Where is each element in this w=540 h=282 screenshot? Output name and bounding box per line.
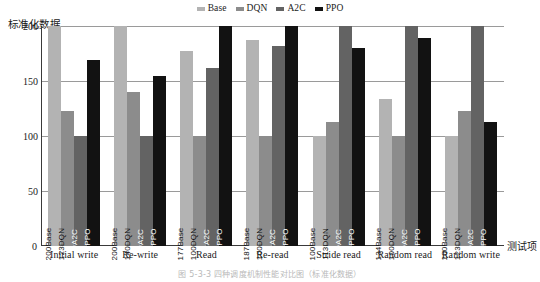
bar-read-base[interactable]: 177Base bbox=[180, 51, 193, 246]
category-label-random-write: Random write bbox=[438, 249, 504, 260]
bar-random-write-a2c[interactable]: 200A2C bbox=[471, 26, 484, 246]
legend-swatch-a2c bbox=[276, 7, 284, 11]
bar-groups: 200Base123DQN100A2C169PPO200Base140DQN10… bbox=[41, 26, 504, 246]
bar-read-ppo[interactable]: 200PPO bbox=[219, 26, 232, 246]
category-label-read: Read bbox=[173, 249, 239, 260]
bar-group-re-write: 200Base140DQN100A2C155PPO bbox=[107, 26, 173, 246]
category-label-random-read: Random read bbox=[372, 249, 438, 260]
bar-initial-write-ppo[interactable]: 169PPO bbox=[87, 60, 100, 246]
legend-item-a2c: A2C bbox=[276, 4, 305, 14]
bar-random-write-ppo[interactable]: 113PPO bbox=[484, 122, 497, 246]
figure-caption: 图 5-3-3 四种调度机制性能对比图（标准化数据） bbox=[0, 268, 540, 279]
legend-label: DQN bbox=[247, 4, 268, 14]
bar-random-read-a2c[interactable]: 200A2C bbox=[405, 26, 418, 246]
bar-re-read-a2c[interactable]: 182A2C bbox=[272, 46, 285, 246]
bar-group-stride-read: 100Base113DQN200A2C180PPO bbox=[306, 26, 372, 246]
legend-item-base: Base bbox=[197, 4, 227, 14]
legend-item-dqn: DQN bbox=[236, 4, 268, 14]
bar-re-write-ppo[interactable]: 155PPO bbox=[153, 76, 166, 247]
bar-initial-write-dqn[interactable]: 123DQN bbox=[61, 111, 74, 246]
category-axis: Initial writeRe-writeReadRe-readStride r… bbox=[41, 249, 504, 260]
bar-re-read-ppo[interactable]: 200PPO bbox=[285, 26, 298, 246]
bar-group-random-read: 134Base100DQN200A2C189PPO bbox=[372, 26, 438, 246]
bar-re-write-base[interactable]: 200Base bbox=[114, 26, 127, 246]
legend-swatch-ppo bbox=[315, 7, 323, 11]
legend-item-ppo: PPO bbox=[315, 4, 344, 14]
bar-initial-write-base[interactable]: 200Base bbox=[48, 26, 61, 246]
bar-group-random-write: 100Base123DQN200A2C113PPO bbox=[438, 26, 504, 246]
legend-label: Base bbox=[208, 4, 227, 14]
legend-label: A2C bbox=[287, 4, 305, 14]
x-axis-title: 测试项 bbox=[507, 238, 537, 253]
category-label-stride-read: Stride read bbox=[306, 249, 372, 260]
bar-re-write-dqn[interactable]: 140DQN bbox=[127, 92, 140, 246]
plot-area: 200Base123DQN100A2C169PPO200Base140DQN10… bbox=[41, 26, 504, 246]
y-tick-label-100: 100 bbox=[23, 131, 38, 142]
category-label-initial-write: Initial write bbox=[41, 249, 107, 260]
y-tick-label-200: 200 bbox=[23, 21, 38, 32]
chart-legend: BaseDQNA2CPPO bbox=[0, 2, 540, 16]
bar-read-a2c[interactable]: 162A2C bbox=[206, 68, 219, 246]
y-tick-zero: 0 bbox=[32, 241, 37, 252]
bar-random-read-ppo[interactable]: 189PPO bbox=[418, 38, 431, 246]
bar-re-read-base[interactable]: 187Base bbox=[246, 40, 259, 246]
bar-stride-read-ppo[interactable]: 180PPO bbox=[352, 48, 365, 246]
bar-group-re-read: 187Base100DQN182A2C200PPO bbox=[239, 26, 305, 246]
bar-stride-read-dqn[interactable]: 113DQN bbox=[326, 122, 339, 246]
legend-label: PPO bbox=[326, 4, 344, 14]
category-label-re-write: Re-write bbox=[107, 249, 173, 260]
bar-group-initial-write: 200Base123DQN100A2C169PPO bbox=[41, 26, 107, 246]
y-tick-label-150: 150 bbox=[23, 76, 38, 87]
y-tick-label-50: 50 bbox=[28, 186, 38, 197]
legend-swatch-base bbox=[197, 7, 205, 11]
bar-random-read-base[interactable]: 134Base bbox=[379, 99, 392, 246]
bar-stride-read-a2c[interactable]: 200A2C bbox=[339, 26, 352, 246]
bar-random-write-dqn[interactable]: 123DQN bbox=[458, 111, 471, 246]
bar-group-read: 177Base100DQN162A2C200PPO bbox=[173, 26, 239, 246]
category-label-re-read: Re-read bbox=[239, 249, 305, 260]
legend-swatch-dqn bbox=[236, 7, 244, 11]
